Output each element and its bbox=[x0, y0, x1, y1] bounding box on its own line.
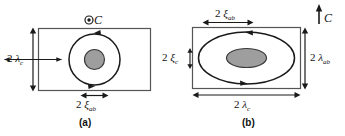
panel-b-c-axis-arrowhead bbox=[316, 4, 322, 12]
panel-b-right-arrow-up bbox=[302, 28, 308, 34]
panel-b-c-axis-label: C bbox=[324, 11, 332, 26]
panel-b-top-dimension-label: 2 ξab bbox=[215, 8, 235, 22]
panel-b-bottom-dim-subscript: c bbox=[247, 105, 250, 113]
panel-a-vortex-core bbox=[85, 50, 105, 70]
panel-b-right-arrow-down bbox=[302, 84, 308, 90]
panel-b-top-arrow-right bbox=[248, 20, 254, 26]
panel-a-left-dim-subscript: c bbox=[20, 59, 23, 67]
vortex-anisotropy-figure: C 2 λc 2 ξab (a) 2 ξab 2 ξc 2 λab 2 λc C… bbox=[0, 0, 345, 136]
panel-b-vortex-core bbox=[227, 49, 267, 68]
panel-a-left-arrow-up bbox=[30, 28, 36, 34]
panel-b-bottom-arrow-left bbox=[193, 92, 199, 98]
panel-a-c-axis-label: C bbox=[94, 13, 102, 28]
panel-b-bottom-dimension-label: 2 λc bbox=[234, 99, 250, 113]
panel-b-left-dimension-label: 2 ξc bbox=[162, 52, 178, 66]
panel-a-c-axis-dot bbox=[87, 18, 90, 21]
panel-b-left-arrow-up bbox=[187, 48, 192, 53]
panel-a-caption: (a) bbox=[79, 117, 91, 128]
panel-a-bottom-arrow-right bbox=[103, 93, 109, 99]
panel-b-right-dim-subscript: ab bbox=[323, 58, 330, 66]
panel-b-left-arrow-down bbox=[187, 64, 192, 69]
panel-a-group bbox=[5, 16, 151, 98]
panel-a-left-dimension-label: 2 λc bbox=[7, 53, 23, 67]
panel-b-bottom-dim-number: 2 bbox=[234, 98, 240, 110]
panel-a-left-arrow-down bbox=[30, 86, 36, 92]
figure-canvas bbox=[0, 0, 345, 136]
panel-b-left-dim-subscript: c bbox=[175, 58, 178, 66]
panel-a-bottom-dim-subscript: ab bbox=[89, 105, 96, 113]
panel-b-right-dimension-label: 2 λab bbox=[310, 52, 330, 66]
panel-a-bottom-dimension-label: 2 ξab bbox=[76, 99, 96, 113]
panel-b-caption: (b) bbox=[242, 117, 255, 128]
panel-b-bottom-arrow-right bbox=[295, 92, 301, 98]
panel-b-group bbox=[187, 4, 322, 98]
panel-a-left-dim-number: 2 bbox=[7, 52, 13, 64]
panel-b-top-dim-number: 2 bbox=[215, 7, 221, 19]
panel-a-bottom-dim-number: 2 bbox=[76, 98, 82, 110]
panel-b-right-dim-number: 2 bbox=[310, 51, 316, 63]
panel-b-top-arrow-left bbox=[203, 20, 209, 26]
panel-b-left-dim-number: 2 bbox=[162, 51, 168, 63]
panel-b-top-dim-subscript: ab bbox=[228, 14, 235, 22]
